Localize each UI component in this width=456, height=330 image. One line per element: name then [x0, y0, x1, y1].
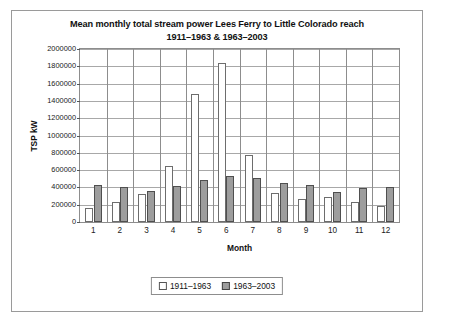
x-axis-separator	[319, 49, 320, 222]
x-axis-separator	[213, 49, 214, 222]
y-tick-label: 1400000	[47, 97, 76, 104]
y-tick-mark	[77, 101, 80, 102]
bar-1-series-2	[94, 185, 102, 222]
bar-12-series-2	[386, 187, 394, 222]
y-tick-mark	[77, 222, 80, 223]
y-tick-label: 1800000	[47, 63, 76, 70]
x-tick-label: 10	[328, 226, 337, 235]
y-tick-label: 400000	[51, 184, 76, 191]
x-axis-separator	[160, 49, 161, 222]
chart-legend: 1911–19631963–2003	[151, 277, 283, 295]
bar-8-series-1	[271, 193, 279, 222]
y-axis-title: TSP kW	[27, 48, 41, 223]
legend-swatch-icon	[222, 282, 230, 290]
y-tick-mark	[77, 205, 80, 206]
y-tick-label: 200000	[51, 201, 76, 208]
bar-10-series-2	[333, 192, 341, 222]
x-axis-separator	[186, 49, 187, 222]
y-tick-label: 2000000	[47, 45, 76, 52]
chart-title: Mean monthly total stream power Lees Fer…	[12, 18, 422, 43]
x-tick-label: 9	[304, 226, 309, 235]
bar-6-series-2	[226, 176, 234, 222]
bar-8-series-2	[280, 183, 288, 222]
chart-title-line-1: Mean monthly total stream power Lees Fer…	[12, 18, 422, 31]
x-axis-title: Month	[79, 243, 400, 253]
x-tick-label: 5	[197, 226, 202, 235]
x-axis-separator	[346, 49, 347, 222]
x-axis-separator	[133, 49, 134, 222]
bar-5-series-1	[191, 94, 199, 222]
bar-7-series-2	[253, 178, 261, 222]
y-tick-mark	[77, 187, 80, 188]
bar-1-series-1	[85, 208, 93, 222]
bar-4-series-2	[173, 186, 181, 222]
x-tick-label: 4	[171, 226, 176, 235]
x-tick-label: 1	[91, 226, 96, 235]
y-tick-label: 1600000	[47, 80, 76, 87]
x-tick-label: 12	[381, 226, 390, 235]
bar-2-series-1	[112, 202, 120, 222]
chart-title-line-2: 1911–1963 & 1963–2003	[12, 31, 422, 44]
chart-card: Mean monthly total stream power Lees Fer…	[11, 10, 423, 312]
bar-9-series-2	[306, 185, 314, 222]
bar-3-series-2	[147, 191, 155, 222]
y-tick-mark	[77, 118, 80, 119]
y-tick-mark	[77, 84, 80, 85]
legend-label: 1911–1963	[170, 281, 211, 291]
plot-area: 2000000180000016000001400000120000010000…	[79, 48, 400, 223]
x-tick-label: 2	[118, 226, 123, 235]
bar-5-series-2	[200, 180, 208, 222]
y-tick-label: 800000	[51, 149, 76, 156]
y-axis-title-label: TSP kW	[29, 120, 39, 151]
x-tick-label: 7	[251, 226, 256, 235]
x-axis-separator	[293, 49, 294, 222]
bar-9-series-1	[298, 199, 306, 222]
y-tick-label: 0	[72, 218, 76, 225]
legend-label: 1963–2003	[233, 281, 275, 291]
x-axis-separator	[266, 49, 267, 222]
x-axis-separator	[240, 49, 241, 222]
y-tick-mark	[77, 49, 80, 50]
legend-entry-1[interactable]: 1911–1963	[159, 281, 211, 291]
y-tick-mark	[77, 153, 80, 154]
y-tick-mark	[77, 66, 80, 67]
y-tick-label: 600000	[51, 166, 76, 173]
x-tick-label: 6	[224, 226, 229, 235]
bar-11-series-2	[359, 188, 367, 222]
x-axis-separator	[372, 49, 373, 222]
x-tick-label: 11	[355, 226, 364, 235]
bar-11-series-1	[351, 202, 359, 222]
x-axis-title-label: Month	[227, 243, 252, 253]
bar-2-series-2	[120, 187, 128, 222]
bar-10-series-1	[324, 197, 332, 222]
y-tick-label: 1000000	[47, 132, 76, 139]
bar-6-series-1	[218, 63, 226, 222]
y-tick-mark	[77, 170, 80, 171]
x-axis-separator	[107, 49, 108, 222]
y-tick-mark	[77, 136, 80, 137]
x-tick-label: 8	[277, 226, 282, 235]
x-tick-label: 3	[144, 226, 149, 235]
legend-entry-2[interactable]: 1963–2003	[222, 281, 275, 291]
bar-3-series-1	[138, 194, 146, 222]
bar-12-series-1	[377, 206, 385, 222]
bar-4-series-1	[165, 166, 173, 222]
bar-7-series-1	[245, 155, 253, 222]
y-tick-label: 1200000	[47, 114, 76, 121]
legend-swatch-icon	[159, 282, 167, 290]
